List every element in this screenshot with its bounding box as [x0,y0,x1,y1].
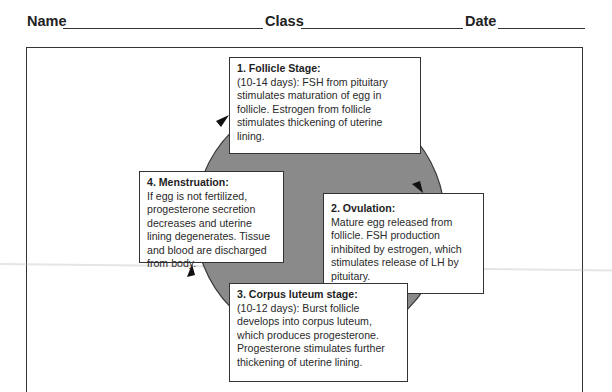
stage-description: (10-12 days): Burst follicle develops in… [237,302,400,370]
stage-1-follicle-box: 1. Follicle Stage: (10-14 days): FSH fro… [229,57,421,154]
stage-4-menstruation-box: 4. Menstruation: If egg is not fertilize… [139,171,284,263]
stage-title: 1. Follicle Stage: [237,62,413,76]
stage-title: 4. Menstruation: [147,176,276,190]
stage-description: (10-14 days): FSH from pituitary stimula… [237,76,413,144]
stage-2-ovulation-box: 2. Ovulation: Mature egg released from f… [323,193,484,294]
stage-3-corpus-luteum-box: 3. Corpus luteum stage: (10-12 days): Bu… [229,283,408,382]
stage-title: 2. Ovulation: [331,202,476,216]
arrow-4-to-1-icon [216,115,229,127]
stage-title: 3. Corpus luteum stage: [237,288,400,302]
stage-description: If egg is not fertilized, progesterone s… [147,190,276,271]
stage-description: Mature egg released from follicle. FSH p… [331,216,476,284]
